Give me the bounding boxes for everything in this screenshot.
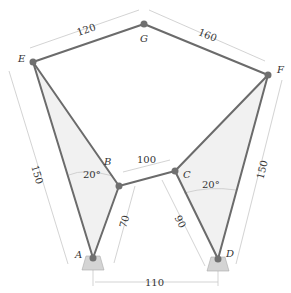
label-d: D — [225, 248, 234, 259]
dim-eg: 120 — [75, 21, 97, 38]
angle-left: 20° — [83, 169, 101, 180]
joint-c — [172, 168, 179, 175]
label-g: G — [140, 33, 148, 44]
joint-f — [265, 72, 272, 79]
joint-e — [30, 59, 37, 66]
label-c: C — [183, 169, 191, 180]
linkage-diagram: E G F B C A D 120 160 150 150 100 70 90 … — [0, 0, 291, 293]
angle-right: 20° — [202, 179, 220, 190]
label-f: F — [276, 64, 285, 75]
joint-a — [90, 255, 97, 262]
joint-b — [116, 183, 123, 190]
dim-gf: 160 — [197, 26, 219, 43]
dim-ea: 150 — [29, 164, 45, 185]
label-a: A — [74, 249, 82, 260]
dim-ab: 70 — [117, 214, 131, 229]
joint-d — [215, 256, 222, 263]
dim-bc: 100 — [137, 154, 156, 165]
dim-fd: 150 — [254, 159, 269, 180]
right-rocker-triangle — [175, 75, 268, 259]
label-e: E — [17, 53, 26, 64]
dim-ad: 110 — [145, 277, 164, 288]
joint-g — [141, 21, 148, 28]
label-b: B — [103, 156, 111, 167]
